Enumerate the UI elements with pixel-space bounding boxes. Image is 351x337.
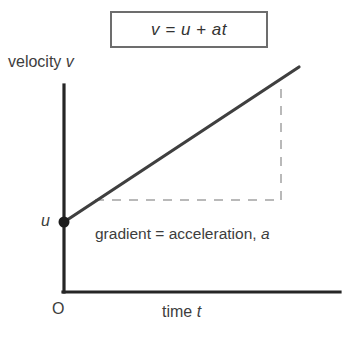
origin-label-text: O <box>52 300 64 317</box>
y-axis-label-text: velocity v <box>8 53 74 70</box>
x-axis-label: time t <box>162 303 201 321</box>
x-axis-label-text: time t <box>162 303 201 320</box>
y-axis-label: velocity v <box>8 53 74 71</box>
graph-canvas <box>0 0 351 337</box>
intercept-dot <box>59 217 70 228</box>
velocity-time-diagram: v = u + at velocity v u O time t gradien… <box>0 0 351 337</box>
origin-label: O <box>52 300 64 318</box>
gradient-annotation: gradient = acceleration, a <box>95 225 270 243</box>
velocity-line <box>64 67 299 222</box>
gradient-annotation-text: gradient = acceleration, a <box>95 225 270 242</box>
intercept-label: u <box>41 212 50 230</box>
intercept-label-text: u <box>41 212 50 229</box>
